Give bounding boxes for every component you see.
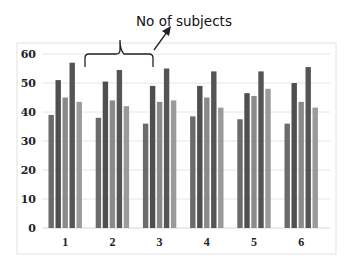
bar [218, 108, 223, 228]
x-tick-label: 6 [298, 235, 304, 249]
annotation-label: No of subjects [136, 13, 232, 29]
bar [117, 70, 122, 228]
bar [63, 98, 68, 229]
bar [56, 80, 61, 228]
bar [237, 119, 242, 228]
bar [285, 124, 290, 228]
bar-chart: 0102030405060 123456 No of subjects [0, 0, 350, 270]
bar [70, 63, 75, 228]
bar [258, 71, 263, 228]
bar [313, 108, 318, 228]
bar [171, 100, 176, 228]
bar [251, 96, 256, 228]
bar [211, 71, 216, 228]
y-tick-label: 30 [21, 135, 37, 148]
bar [164, 69, 169, 229]
y-tick-label: 20 [21, 164, 37, 177]
bar [110, 100, 115, 228]
bar [190, 116, 195, 228]
y-tick-label: 50 [21, 77, 37, 90]
y-tick-label: 60 [21, 48, 37, 61]
bar [265, 89, 270, 228]
x-tick-label: 2 [109, 235, 115, 249]
y-tick-label: 0 [28, 222, 36, 235]
bar [124, 106, 129, 228]
bar [299, 102, 304, 228]
bar [292, 83, 297, 228]
bar [96, 118, 101, 228]
bar [204, 98, 209, 229]
bar [197, 86, 202, 228]
bar [306, 67, 311, 228]
bar [49, 115, 54, 228]
x-tick-label: 4 [204, 235, 210, 249]
x-tick-label: 1 [62, 235, 68, 249]
bar [150, 86, 155, 228]
bar [143, 124, 148, 228]
bar [103, 82, 108, 228]
bar [157, 102, 162, 228]
x-tick-label: 5 [251, 235, 257, 249]
x-tick-label: 3 [157, 235, 163, 249]
y-tick-label: 40 [21, 106, 37, 119]
y-tick-label: 10 [21, 193, 37, 206]
bar [77, 102, 82, 228]
bar [244, 93, 249, 228]
